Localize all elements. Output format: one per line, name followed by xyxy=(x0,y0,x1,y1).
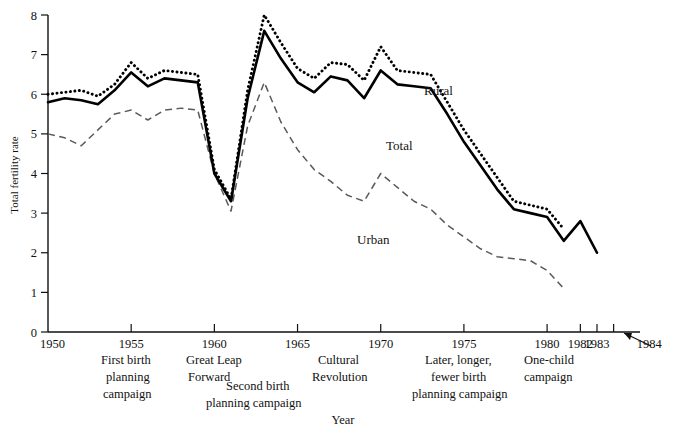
annotation-line: planning campaign xyxy=(206,396,302,410)
x-tick-label: 1965 xyxy=(285,337,310,351)
leader-arrowhead-1984 xyxy=(624,333,632,340)
annotation-line: fewer birth xyxy=(431,370,487,384)
y-tick-label: 5 xyxy=(31,127,37,141)
y-tick-label: 1 xyxy=(31,286,37,300)
x-tick-label: 1960 xyxy=(202,337,227,351)
x-tick-label: 1984 xyxy=(637,337,663,351)
annotation-one-child: One-child campaign xyxy=(524,353,575,384)
x-axis-label: Year xyxy=(331,413,355,427)
y-axis-label: Total fertility rate xyxy=(8,136,20,214)
series-label-total: Total xyxy=(386,138,413,153)
y-tick-label: 8 xyxy=(31,9,37,23)
y-tick-label: 2 xyxy=(31,246,37,260)
x-tick-label: 1980 xyxy=(535,337,560,351)
annotation-line: campaign xyxy=(524,370,573,384)
annotation-later-longer-fewer: Later, longer, fewer birth planning camp… xyxy=(412,353,508,401)
y-tick-label: 7 xyxy=(31,48,37,62)
y-tick-label: 6 xyxy=(31,88,37,102)
x-tick-label: 1983 xyxy=(585,337,610,351)
annotation-line: One-child xyxy=(524,353,575,367)
chart-svg: Total fertility rate 012345678 195019551… xyxy=(0,0,686,436)
x-tick-label: 1955 xyxy=(119,337,144,351)
annotation-line: Forward xyxy=(188,370,231,384)
annotation-line: planning campaign xyxy=(412,387,508,401)
series-label-urban: Urban xyxy=(357,232,390,247)
series-line-urban xyxy=(48,82,564,288)
annotation-line: Second birth xyxy=(226,379,290,393)
series-label-rural: Rural xyxy=(424,83,453,98)
annotation-cultural-revolution: Cultural Revolution xyxy=(312,353,368,384)
annotation-line: planning xyxy=(106,370,150,384)
y-tick-label: 0 xyxy=(31,326,37,340)
fertility-rate-chart: Total fertility rate 012345678 195019551… xyxy=(0,0,686,436)
series-line-rural xyxy=(48,15,564,229)
annotation-line: Cultural xyxy=(318,353,359,367)
annotation-line: Revolution xyxy=(312,370,368,384)
annotation-line: Great Leap xyxy=(186,353,242,367)
annotation-first-birth: First birth planning campaign xyxy=(101,353,152,401)
y-axis-ticks: 012345678 xyxy=(31,9,48,340)
x-tick-label: 1975 xyxy=(451,337,476,351)
y-tick-label: 3 xyxy=(31,207,37,221)
x-tick-label: 1950 xyxy=(40,337,65,351)
y-tick-label: 4 xyxy=(31,167,38,181)
annotation-line: Later, longer, xyxy=(425,353,492,367)
series-line-total xyxy=(48,31,597,253)
annotation-line: campaign xyxy=(103,387,152,401)
x-tick-label: 1970 xyxy=(368,337,393,351)
x-axis-ticks: 1950195519601965197019751980198219831984 xyxy=(40,324,662,351)
annotation-line: First birth xyxy=(101,353,151,367)
